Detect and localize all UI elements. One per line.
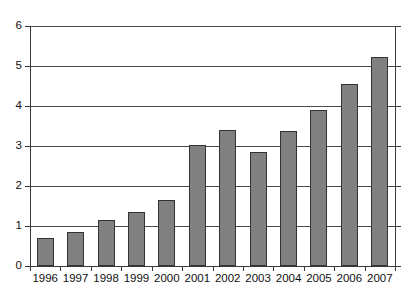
gridline: [30, 26, 395, 27]
gridline: [30, 66, 395, 67]
bar[interactable]: [341, 84, 358, 266]
x-axis-tick-label: 2004: [276, 273, 302, 285]
y-axis-tick-label: 2: [16, 180, 22, 192]
bar[interactable]: [310, 110, 327, 266]
y-axis-line-left: [30, 26, 31, 266]
x-axis-tick: [121, 266, 122, 271]
bar[interactable]: [98, 220, 115, 266]
bar[interactable]: [128, 212, 145, 266]
bar[interactable]: [158, 200, 175, 266]
y-axis-tick-label: 6: [16, 20, 22, 32]
x-axis-tick-label: 2001: [184, 273, 210, 285]
y-axis-tick-label: 3: [16, 140, 22, 152]
x-axis-tick: [152, 266, 153, 271]
x-axis-tick: [304, 266, 305, 271]
y-axis-tick-label: 1: [16, 220, 22, 232]
x-axis-tick: [273, 266, 274, 271]
x-axis-tick-label: 1996: [32, 273, 58, 285]
bar[interactable]: [37, 238, 54, 266]
y-axis-tick-label: 5: [16, 60, 22, 72]
x-axis-tick: [30, 266, 31, 271]
x-axis-tick: [213, 266, 214, 271]
x-axis-tick-label: 2007: [367, 273, 393, 285]
x-axis-tick: [60, 266, 61, 271]
bar[interactable]: [189, 145, 206, 266]
bar[interactable]: [371, 57, 388, 266]
chart-screenshot: 0123456 19961997199819992000200120022003…: [0, 0, 417, 297]
x-axis-tick-label: 2005: [306, 273, 332, 285]
y-axis-line-right: [395, 26, 396, 266]
x-axis-tick-label: 2003: [245, 273, 271, 285]
bar[interactable]: [280, 131, 297, 266]
x-axis-tick-label: 2006: [337, 273, 363, 285]
x-axis-tick-label: 2002: [215, 273, 241, 285]
plot-area: 0123456 19961997199819992000200120022003…: [30, 26, 395, 266]
x-axis-tick-label: 1999: [124, 273, 150, 285]
x-axis-tick: [334, 266, 335, 271]
bar[interactable]: [219, 130, 236, 266]
y-axis-tick-label: 4: [16, 100, 22, 112]
bar[interactable]: [67, 232, 84, 266]
x-axis-tick-label: 1997: [63, 273, 89, 285]
x-axis-tick: [91, 266, 92, 271]
x-axis-tick: [365, 266, 366, 271]
x-axis-tick: [243, 266, 244, 271]
bar[interactable]: [250, 152, 267, 266]
x-axis-tick-label: 2000: [154, 273, 180, 285]
x-axis-tick-label: 1998: [93, 273, 119, 285]
y-axis-tick-label: 0: [16, 260, 22, 272]
x-axis-tick: [395, 266, 396, 271]
x-axis-tick: [182, 266, 183, 271]
